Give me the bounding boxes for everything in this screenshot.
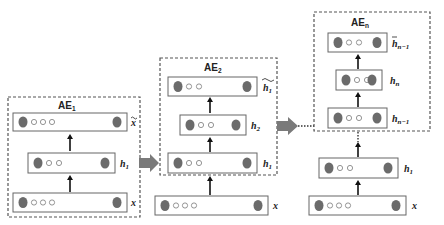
neuron-first [325,163,334,174]
neuron-last [101,158,110,169]
ae2-arrow-x-to-h1 [207,176,213,195]
neuron-last [368,75,377,86]
arrow-head-icon [207,137,213,142]
neuron-last [384,163,393,174]
transfer-arrow-ae2-to-aen [277,117,298,135]
neuron-first [334,113,343,124]
ae1-arrow-x-to-h1 [67,175,73,192]
transfer-arrow-ae1-to-ae2 [139,154,159,172]
neuron-small [49,119,54,124]
aen-arrow-hn-to-output [355,54,361,69]
ae1-label-x: x [130,197,136,208]
neuron-small [208,122,213,127]
autoencoder-n: AEn hn−1 hn hn−1 h1 x [309,12,430,215]
neuron-first [19,117,28,128]
arrow-head-icon [355,92,361,97]
neuron-small [356,40,361,45]
ae2-layer-h1 [168,153,257,173]
neuron-small [186,160,191,165]
neuron-first [174,81,183,92]
arrow-head-icon [67,175,73,180]
ae1-layer-h1 [28,153,115,173]
neuron-small [186,84,191,89]
layer-rect [309,196,406,215]
neuron-small [191,203,196,208]
neuron-last [373,113,382,124]
neuron-small [337,165,342,170]
neuron-small [49,200,54,205]
neuron-small [31,119,36,124]
layer-rect [13,113,127,131]
arrow-head-icon [355,180,361,185]
aen-label-hn-1: hn−1 [392,113,409,126]
neuron-first [315,200,324,211]
ae2-label-h1-reconstructed: h1 [262,79,274,96]
neuron-small [196,160,201,165]
neuron-small [173,203,178,208]
neuron-small [347,165,352,170]
neuron-small [46,160,51,165]
ae2-title: AE2 [204,62,222,74]
ae1-label-x-reconstructed: x [130,117,137,128]
svg-text:hn−1: hn−1 [392,38,409,51]
aen-title: AEn [351,17,369,29]
layer-rect [13,193,127,212]
ae1-layer-x [13,193,127,212]
ae1-title: AE1 [58,100,76,112]
neuron-small [40,200,45,205]
stacked-autoencoder-diagram: AE1 x h1 x AE2 h1 h2 [0,0,444,225]
arrow-head-icon [207,176,213,181]
neuron-first [34,158,43,169]
aen-arrow-x-to-h1 [355,180,361,195]
neuron-first [161,200,170,211]
arrow-head-icon [207,97,213,102]
arrow-head-icon [355,54,361,59]
neuron-first [334,37,343,48]
aen-arrow-hn-1-to-hn [355,92,361,107]
neuron-last [254,200,263,211]
neuron-last [232,120,241,131]
svg-text:h1: h1 [263,82,272,95]
neuron-small [182,203,187,208]
neuron-first [342,75,351,86]
neuron-last [392,200,401,211]
neuron-last [243,158,252,169]
neuron-small [327,203,332,208]
ae2-label-h1: h1 [263,158,272,171]
neuron-small [196,84,201,89]
neuron-small [56,160,61,165]
aen-label-hn-1-reconstructed: hn−1 [392,37,409,51]
aen-layer-hn-1 [328,108,387,128]
aen-layer-hn [336,70,382,90]
neuron-small [354,77,359,82]
ae1-label-h1: h1 [120,158,129,171]
ae2-arrow-h1-to-h2 [207,137,213,152]
neuron-last [113,197,122,208]
neuron-first [174,158,183,169]
ae2-arrow-h2-to-output [207,97,213,113]
neuron-small [346,40,351,45]
neuron-small [31,200,36,205]
ae2-label-x: x [272,200,278,211]
ae2-layer-h2 [180,115,246,135]
arrow-head-icon [67,134,73,139]
neuron-small [346,115,351,120]
ae2-layer-h1-reconstructed [168,77,257,96]
aen-arrow-h1-up [355,142,361,157]
neuron-last [113,117,122,128]
layer-rect [155,196,268,215]
neuron-small [40,119,45,124]
neuron-last [243,81,252,92]
ae2-layer-x [155,196,268,215]
neuron-small [356,115,361,120]
aen-layer-x [309,196,406,215]
neuron-small [336,203,341,208]
autoencoder-2: AE2 h1 h2 h1 x [155,58,278,215]
aen-layer-h1 [319,158,398,178]
neuron-small [345,203,350,208]
ae1-layer-x-reconstructed [13,113,127,131]
aen-label-h1: h1 [404,163,413,176]
arrow-head-icon [355,142,361,147]
aen-layer-hn-1-reconstructed [328,33,387,52]
neuron-last [373,37,382,48]
